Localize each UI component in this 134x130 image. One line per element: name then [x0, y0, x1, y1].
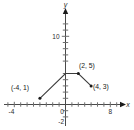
y-axis-label: y	[63, 1, 68, 9]
x-axis-arrow-icon	[120, 102, 126, 107]
x-tick-label-zero: 0	[60, 108, 64, 115]
point-annotation-4-3: (4, 3)	[93, 83, 109, 91]
point-annotation-neg4-1: (-4, 1)	[11, 84, 29, 92]
x-axis-label: x	[125, 101, 130, 108]
coordinate-plane-svg: -4 0 8 10 -2 x y (-4, 1) (2, 5) (4, 3)	[0, 0, 134, 130]
x-tick-label-neg4: -4	[9, 108, 15, 115]
y-tick-label-neg2: -2	[58, 118, 64, 125]
point-annotation-2-5: (2, 5)	[79, 62, 95, 70]
coordinate-plane-figure: -4 0 8 10 -2 x y (-4, 1) (2, 5) (4, 3)	[0, 0, 134, 130]
data-point-marker	[38, 97, 41, 100]
y-axis-arrow-icon	[63, 8, 68, 14]
x-tick-label-eight: 8	[108, 108, 112, 115]
y-tick-label-ten: 10	[52, 33, 60, 40]
data-point-marker	[77, 72, 80, 75]
